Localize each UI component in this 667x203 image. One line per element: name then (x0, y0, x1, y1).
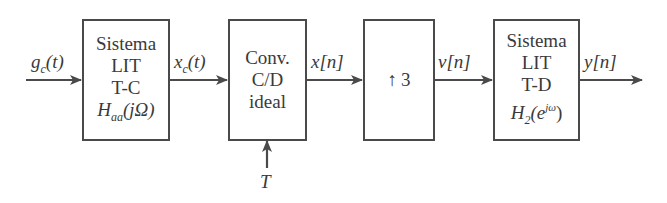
tf-sup: jω (545, 101, 556, 113)
signal-arg: [n] (446, 51, 470, 72)
signal-arg: [n] (319, 51, 343, 72)
vn-signal-label: v[n] (438, 52, 471, 72)
block-line: LIT (111, 55, 141, 77)
signal-base: g (31, 51, 41, 72)
transfer-function: Haa(jΩ) (97, 99, 154, 128)
signal-arg: (t) (46, 51, 64, 72)
signal-arg: (t) (188, 51, 206, 72)
dt-lti-system-block: Sistema LIT T-D H2(ejω) (493, 19, 580, 141)
yn-signal-label: y[n] (584, 52, 617, 72)
upsample-label: ↑ 3 (388, 69, 411, 91)
tf-base: H (97, 99, 111, 120)
up-arrow-icon: ↑ (388, 69, 398, 91)
sampling-period-label: T (260, 172, 271, 192)
block-line: LIT (522, 52, 552, 74)
tf-base: H (511, 102, 525, 123)
block-line: C/D (252, 69, 284, 91)
signal-arg: [n] (592, 51, 616, 72)
xn-signal-label: x[n] (311, 52, 344, 72)
block-line: Sistema (96, 33, 156, 55)
block-line: T-D (522, 74, 552, 96)
tf-arg: (jΩ) (123, 99, 155, 120)
cd-converter-block: Conv. C/D ideal (228, 19, 307, 141)
xc-signal-label: xc(t) (174, 52, 206, 79)
ct-lti-system-block: Sistema LIT T-C Haa(jΩ) (82, 19, 170, 141)
upsample-factor: 3 (401, 69, 411, 91)
block-line: Conv. (245, 47, 290, 69)
input-signal-label: gc(t) (31, 52, 64, 79)
tf-sub: aa (111, 110, 123, 124)
tf-close: ) (556, 102, 562, 123)
tf-open: (e (530, 102, 545, 123)
block-line: T-C (112, 77, 141, 99)
transfer-function: H2(ejω) (511, 96, 563, 131)
upsampler-block: ↑ 3 (363, 19, 435, 141)
block-line: Sistema (506, 30, 566, 52)
block-line: ideal (249, 91, 286, 113)
